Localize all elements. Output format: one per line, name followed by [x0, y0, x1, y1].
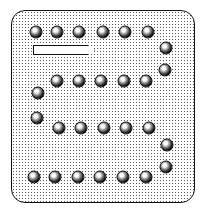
peg[interactable]	[119, 26, 132, 39]
peg[interactable]	[32, 87, 45, 100]
peg[interactable]	[160, 42, 173, 55]
peg[interactable]	[28, 171, 41, 184]
peg[interactable]	[73, 26, 86, 39]
peg[interactable]	[120, 122, 133, 135]
peg[interactable]	[97, 26, 110, 39]
peg[interactable]	[143, 122, 156, 135]
peg[interactable]	[53, 122, 66, 135]
peg[interactable]	[117, 171, 130, 184]
peg[interactable]	[160, 161, 173, 174]
peg[interactable]	[118, 75, 131, 88]
peg[interactable]	[94, 171, 107, 184]
peg[interactable]	[98, 122, 111, 135]
peg[interactable]	[72, 171, 85, 184]
peg[interactable]	[159, 64, 172, 77]
peg[interactable]	[140, 75, 153, 88]
peg[interactable]	[31, 112, 44, 125]
peg[interactable]	[51, 26, 64, 39]
peg[interactable]	[161, 139, 174, 152]
peg[interactable]	[142, 26, 155, 39]
peg[interactable]	[49, 171, 62, 184]
peg[interactable]	[73, 75, 86, 88]
peg[interactable]	[51, 75, 64, 88]
peg[interactable]	[30, 26, 43, 39]
slot-indicator	[33, 45, 95, 55]
peg[interactable]	[95, 75, 108, 88]
peg[interactable]	[75, 122, 88, 135]
peg[interactable]	[140, 171, 153, 184]
